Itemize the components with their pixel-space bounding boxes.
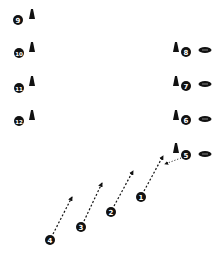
player-12: 12 <box>14 116 24 126</box>
passes <box>165 158 181 164</box>
player-number-label: 12 <box>15 119 23 125</box>
player-8: 8 <box>181 47 191 57</box>
player-3: 3 <box>76 222 86 232</box>
route-arrow-player-2 <box>114 171 133 206</box>
cone-8-icon <box>173 42 179 52</box>
player-7: 7 <box>181 81 191 91</box>
player-number-label: 4 <box>48 237 53 245</box>
drill-diagram: 910111287651234 <box>0 0 224 259</box>
route-arrow-player-3 <box>84 183 102 221</box>
pass-arrow-player-5 <box>165 158 181 164</box>
players: 910111287651234 <box>13 15 191 245</box>
player-number-label: 11 <box>15 86 23 92</box>
player-number-label: 7 <box>184 83 189 91</box>
cone-9-icon <box>29 9 35 19</box>
routes <box>53 156 163 234</box>
player-number-label: 3 <box>79 224 84 232</box>
cone-12-icon <box>29 110 35 120</box>
player-number-label: 9 <box>16 17 21 25</box>
route-arrow-player-1 <box>144 156 163 191</box>
player-4: 4 <box>45 235 55 245</box>
cone-11-icon <box>29 76 35 86</box>
player-1: 1 <box>136 192 146 202</box>
player-2: 2 <box>106 207 116 217</box>
player-number-label: 8 <box>184 49 189 57</box>
player-number-label: 5 <box>184 152 189 160</box>
player-number-label: 10 <box>15 51 23 57</box>
cone-5-icon <box>173 143 179 153</box>
player-11: 11 <box>14 83 24 93</box>
player-number-label: 6 <box>184 117 189 125</box>
footballs <box>199 47 212 157</box>
player-10: 10 <box>14 48 24 58</box>
route-arrow-player-4 <box>53 197 72 234</box>
player-number-label: 2 <box>109 209 114 217</box>
cones <box>29 9 179 153</box>
player-6: 6 <box>181 115 191 125</box>
player-9: 9 <box>13 15 23 25</box>
player-number-label: 1 <box>139 194 144 202</box>
cone-7-icon <box>173 76 179 86</box>
player-5: 5 <box>181 150 191 160</box>
cone-10-icon <box>29 42 35 52</box>
cone-6-icon <box>173 110 179 120</box>
